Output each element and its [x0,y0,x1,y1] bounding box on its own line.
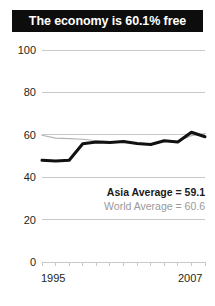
y-axis-tick-100: 100 [2,44,36,56]
y-axis-tick-20: 20 [2,214,36,226]
legend-item-asia: Asia Average = 59.1 [104,186,205,200]
chart-container: The economy is 60.1% free 100806040200 1… [0,0,215,306]
gridlines [42,50,205,262]
x-axis-label-start: 1995 [41,272,65,284]
y-axis-tick-60: 60 [2,129,36,141]
y-axis-tick-0: 0 [2,256,36,268]
y-axis-tick-80: 80 [2,86,36,98]
legend-item-world: World Average = 60.6 [104,200,205,214]
chart-legend: Asia Average = 59.1 World Average = 60.6 [104,186,205,214]
x-axis-label-end: 2007 [178,272,202,284]
y-axis-tick-40: 40 [2,171,36,183]
x-axis-ticks [42,262,205,266]
series-layer [42,132,205,161]
